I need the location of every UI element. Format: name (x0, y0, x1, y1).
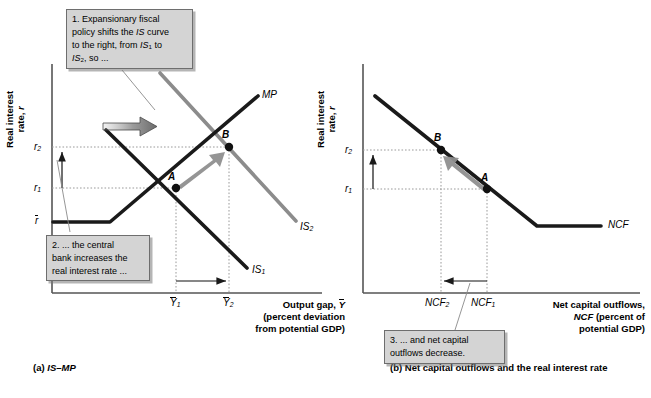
point-label-a-panel-a: A (168, 171, 175, 182)
panel-a-xtick-y1: Y1 (170, 297, 180, 308)
curve-ncf (375, 96, 601, 226)
curve-label-mp: MP (262, 89, 277, 100)
point-a-panel-a (172, 184, 180, 192)
point-b-panel-b (437, 146, 445, 154)
curve-label-is1: IS1 (252, 264, 265, 275)
a-to-b-arrow-panel-b (443, 156, 486, 191)
panel-a-ytick-r2: r2 (34, 141, 41, 152)
panel-b-y-axis-label: Real interestrate, r (315, 81, 338, 157)
panel-a-x-axis-title-l2: (percent deviation (263, 311, 345, 322)
panel-b-ytick-r2: r2 (345, 144, 352, 155)
panel-a-x-axis-title: Output gap, Y (percent deviation from po… (225, 299, 345, 335)
panel-a-ytick-r1: r1 (34, 182, 41, 193)
panel-b-x-axis-title-l2: NCF (percent of (574, 311, 645, 322)
callout-leader-lines-a (57, 70, 155, 232)
curve-mp (53, 96, 258, 222)
panel-b-ytick-r1: r1 (345, 183, 352, 194)
panel-b-caption: (b) Net capital outflows and the real in… (390, 362, 607, 373)
economics-figure: Real interestrate, r r2 r1 r Y1 Y2 MP IS… (0, 0, 651, 398)
panel-b-xtick-ncf1: NCF1 (471, 297, 495, 308)
point-a-panel-b (483, 185, 491, 193)
panel-b-x-axis-title-l3: potential GDP) (579, 323, 645, 334)
curve-label-ncf: NCF (608, 219, 629, 230)
panel-b-x-axis-title-l1: Net capital outflows, (553, 299, 645, 310)
panel-a-y-axis-label-text: Real interestrate, r (4, 91, 26, 148)
panel-a-caption: (a) IS–MP (33, 362, 76, 373)
panel-a-x-axis-title-l1: Output gap, Y (283, 299, 345, 310)
panel-b-xtick-ncf2: NCF2 (425, 297, 449, 308)
callout-leader-lines-b (455, 283, 470, 330)
callout-2: 2. ... the central bank increases the re… (46, 235, 150, 281)
panel-a-y-axis-label: Real interestrate, r (4, 81, 27, 157)
panel-a-x-axis-title-l3: from potential GDP) (255, 323, 345, 334)
panel-b-x-axis-title: Net capital outflows, NCF (percent of po… (540, 299, 645, 335)
panel-a-ytick-rbar: r (35, 215, 38, 226)
point-label-b-panel-b: B (434, 132, 441, 143)
callout-3: 3. ... and net capital outflows decrease… (384, 330, 505, 364)
callout-1: 1. Expansionary fiscal policy shifts the… (66, 9, 193, 69)
panel-b-y-axis-label-text: Real interestrate, r (315, 91, 337, 148)
panel-b-axes (363, 64, 640, 293)
point-b-panel-a (225, 143, 233, 151)
point-label-b-panel-a: B (222, 129, 229, 140)
point-label-a-panel-b: A (481, 172, 488, 183)
curve-label-is2: IS2 (300, 221, 313, 232)
